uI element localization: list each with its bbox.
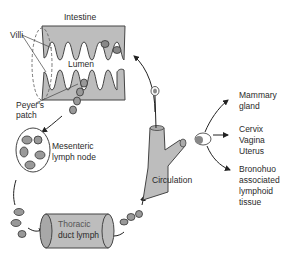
label-bronchus-3: lymphoid: [239, 186, 273, 196]
label-vagina: Vagina: [239, 135, 265, 145]
label-cervix: Cervix: [239, 124, 263, 134]
label-mammary-2: gland: [239, 101, 260, 111]
label-mesenteric-1: Mesenteric: [52, 141, 94, 151]
mesenteric-lymph-node: [16, 128, 50, 172]
label-lumen: Lumen: [68, 59, 94, 69]
label-uterus: Uterus: [239, 146, 264, 156]
label-mesenteric-2: lymph node: [52, 152, 96, 162]
label-villi: Villi: [10, 30, 23, 40]
label-bronchus-4: tissue: [239, 197, 261, 207]
label-thoracic-1: Thoracic: [58, 219, 91, 229]
label-circulation: Circulation: [152, 175, 192, 185]
label-bronchus-1: Bronohuo: [239, 164, 276, 174]
label-peyers-patch-2: patch: [16, 110, 37, 120]
label-mammary-1: Mammary: [239, 90, 277, 100]
lymphocytes-bottom: [120, 211, 143, 226]
label-bronchus-2: associated: [239, 175, 280, 185]
label-intestine: Intestine: [64, 12, 96, 22]
label-thoracic-2: duct lymph: [58, 230, 99, 240]
label-peyers-patch-1: Peyer's: [16, 100, 44, 110]
circulation-vessel: [143, 126, 186, 201]
lymphocytes-left: [11, 209, 26, 238]
arrow-to-lymph-node: [42, 116, 62, 132]
